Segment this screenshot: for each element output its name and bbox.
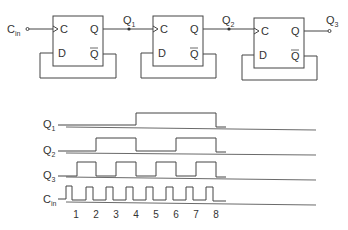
flipflop-2 [141, 16, 216, 78]
q1-label: Q1 [123, 14, 136, 28]
q3-label: Q3 [326, 14, 339, 28]
clock-number: 8 [213, 209, 219, 220]
q1-junction-dot [127, 27, 130, 30]
ff1-qbar-label: Q [90, 48, 99, 60]
q3-waveform [58, 162, 226, 177]
clock-number: 1 [73, 209, 79, 220]
ripple-counter-diagram: Cin C D Q Q C D Q Q C D Q Q Q1 Q2 Q3 [0, 0, 348, 230]
clock-number: 4 [133, 209, 139, 220]
timing-cin-label: Cin [43, 193, 57, 207]
q2-baseline [66, 153, 316, 155]
q1-waveform [58, 113, 226, 127]
ff3-qbar-label: Q [291, 50, 300, 62]
clock-number: 2 [93, 209, 99, 220]
ff1-q-label: Q [90, 23, 99, 35]
ff1-clock-label: C [60, 23, 68, 35]
clock-triangle-icon [153, 26, 158, 32]
ff3-clock-label: C [261, 25, 269, 37]
cin-baseline [66, 202, 316, 205]
ff3-q-label: Q [291, 25, 300, 37]
timing-q3-label: Q3 [43, 169, 56, 183]
clock-number: 7 [193, 209, 199, 220]
q1-baseline [66, 127, 316, 130]
clock-triangle-icon [53, 26, 58, 32]
input-label: Cin [7, 23, 21, 37]
clock-numbers: 1 2 3 4 5 6 7 8 [73, 209, 219, 220]
ff1-d-label: D [58, 47, 66, 59]
clock-triangle-icon [254, 28, 259, 34]
clock-number: 5 [153, 209, 159, 220]
input-terminal-icon [26, 28, 29, 31]
flipflop-3 [242, 18, 317, 80]
ff2-clock-label: C [160, 23, 168, 35]
ff2-qbar-label: Q [190, 48, 199, 60]
ff3-d-label: D [259, 49, 267, 61]
timing-q2-label: Q2 [43, 144, 56, 158]
output-terminal-icon [328, 30, 331, 33]
flipflop-1 [40, 16, 116, 78]
clock-number: 3 [113, 209, 119, 220]
ff2-q-label: Q [190, 23, 199, 35]
q2-waveform [58, 138, 226, 152]
cin-waveform [58, 186, 226, 201]
clock-number: 6 [173, 209, 179, 220]
timing-q1-label: Q1 [43, 118, 56, 132]
timing-diagram [58, 113, 316, 205]
q3-baseline [66, 177, 316, 180]
q2-label: Q2 [222, 14, 235, 28]
ff2-d-label: D [158, 47, 166, 59]
